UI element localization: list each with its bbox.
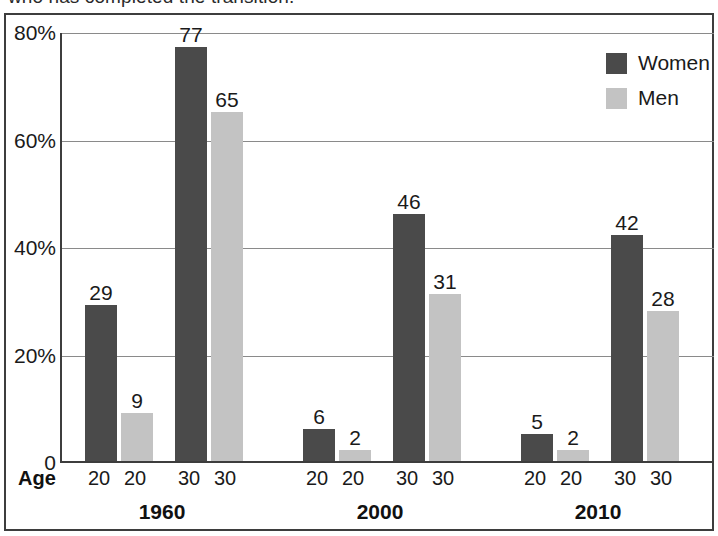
bar-2010-age30-men[interactable]: 28	[647, 311, 679, 462]
gridline-60	[62, 141, 714, 142]
x-axis-tick-1960-1: 20	[88, 467, 110, 490]
bar-value-label: 29	[89, 282, 112, 303]
x-axis-tick-1960-3: 30	[178, 467, 200, 490]
x-axis-tick-1960-2: 20	[124, 467, 146, 490]
bar-value-label: 2	[349, 427, 361, 448]
x-axis-tick-2000-4: 30	[432, 467, 454, 490]
x-axis-tick-2010-1: 20	[524, 467, 546, 490]
y-axis-tick-label: 80%	[14, 21, 56, 45]
x-axis-tick-2010-2: 20	[560, 467, 582, 490]
bar-value-label: 9	[131, 390, 143, 411]
chart-figure-frame: 80%60%40%20%02997765624631524228 Age Wom…	[4, 13, 714, 531]
bar-value-label: 65	[215, 89, 238, 110]
y-axis-tick-label: 40%	[14, 236, 56, 260]
bar-value-label: 28	[651, 288, 674, 309]
bar-2000-age30-men[interactable]: 31	[429, 294, 461, 461]
bar-2000-age30-women[interactable]: 46	[393, 214, 425, 461]
legend-item-women: Women	[606, 51, 710, 75]
group-label-2010: 2010	[575, 500, 622, 524]
x-axis-tick-2000-3: 30	[396, 467, 418, 490]
y-axis-tick-label: 20%	[14, 344, 56, 368]
x-axis-tick-2010-4: 30	[650, 467, 672, 490]
age-axis-label: Age	[18, 467, 56, 490]
x-axis-tick-1960-4: 30	[214, 467, 236, 490]
legend-item-men: Men	[606, 86, 710, 110]
bar-value-label: 42	[615, 212, 638, 233]
x-axis-tick-2000-1: 20	[306, 467, 328, 490]
chart-legend: Women Men	[606, 51, 710, 121]
legend-label-men: Men	[638, 86, 679, 110]
bar-value-label: 46	[397, 191, 420, 212]
bar-value-label: 31	[433, 271, 456, 292]
bar-2000-age20-women[interactable]: 6	[303, 429, 335, 461]
y-axis-tick-label: 60%	[14, 129, 56, 153]
group-label-2000: 2000	[357, 500, 404, 524]
bar-1960-age20-women[interactable]: 29	[85, 305, 117, 461]
x-axis-tick-2010-3: 30	[614, 467, 636, 490]
legend-label-women: Women	[638, 51, 710, 75]
caption-strip: who has completed the transition.	[0, 0, 718, 12]
caption-text: who has completed the transition.	[8, 0, 294, 8]
bar-1960-age20-men[interactable]: 9	[121, 413, 153, 461]
bar-value-label: 6	[313, 406, 325, 427]
bar-1960-age30-men[interactable]: 65	[211, 112, 243, 461]
bar-value-label: 77	[179, 24, 202, 45]
group-label-1960: 1960	[139, 500, 186, 524]
bar-2000-age20-men[interactable]: 2	[339, 450, 371, 461]
bar-value-label: 5	[531, 411, 543, 432]
gridline-80	[62, 33, 714, 34]
legend-swatch-women-icon	[606, 53, 627, 74]
bar-2010-age20-men[interactable]: 2	[557, 450, 589, 461]
bar-2010-age20-women[interactable]: 5	[521, 434, 553, 461]
x-axis-tick-2000-2: 20	[342, 467, 364, 490]
bar-1960-age30-women[interactable]: 77	[175, 47, 207, 461]
bar-2010-age30-women[interactable]: 42	[611, 235, 643, 461]
legend-swatch-men-icon	[606, 88, 627, 109]
bar-value-label: 2	[567, 427, 579, 448]
